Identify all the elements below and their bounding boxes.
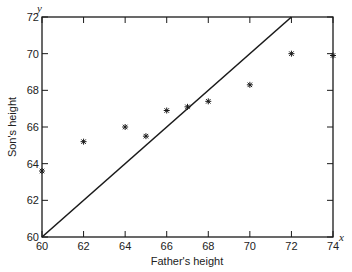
x-tick-label: 70 [244,240,256,252]
data-point [81,139,87,145]
reference-line [42,17,291,237]
plot-frame [42,17,333,237]
data-point [247,82,253,88]
data-points [39,51,336,174]
y-axis-variable: y [36,2,42,14]
y-axis-title: Son's height [6,97,18,157]
y-equals-x-line [42,17,291,237]
plot-axes [42,17,333,237]
scatter-chart: 606264666870727460626466687072 Father's … [0,0,352,272]
data-point [122,124,128,130]
y-tick-label: 62 [27,194,39,206]
y-tick-label: 70 [27,48,39,60]
x-tick-label: 74 [327,240,339,252]
x-tick-label: 62 [77,240,89,252]
y-tick-label: 68 [27,84,39,96]
data-point [330,53,336,59]
y-tick-label: 64 [27,158,39,170]
x-tick-label: 64 [119,240,131,252]
data-point [205,98,211,104]
data-point [288,51,294,57]
x-tick-label: 72 [285,240,297,252]
data-point [39,168,45,174]
data-point [164,108,170,114]
data-point [143,133,149,139]
y-tick-label: 60 [27,231,39,243]
x-axis-variable: x [338,231,344,243]
axis-ticks: 606264666870727460626466687072 [27,11,339,252]
x-tick-label: 66 [161,240,173,252]
x-axis-title: Father's height [151,255,223,267]
data-point [185,104,191,110]
y-tick-label: 66 [27,121,39,133]
x-tick-label: 68 [202,240,214,252]
